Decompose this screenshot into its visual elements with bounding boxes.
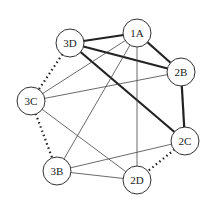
node-2c: 2C <box>171 127 199 155</box>
node-2d: 2D <box>123 166 151 194</box>
node-3d: 3D <box>56 29 84 57</box>
graph-diagram: 1A2B2C2D3B3C3D <box>0 0 212 210</box>
node-label: 3C <box>25 95 38 107</box>
node-label: 3D <box>63 37 77 49</box>
nodes-layer: 1A2B2C2D3B3C3D <box>17 19 199 194</box>
node-3b: 3B <box>43 157 71 185</box>
node-label: 2B <box>175 66 188 78</box>
node-label: 2D <box>130 174 144 186</box>
node-2b: 2B <box>167 58 195 86</box>
node-label: 1A <box>130 27 144 39</box>
edge-3b-2c <box>57 141 185 171</box>
node-label: 2C <box>179 135 192 147</box>
node-1a: 1A <box>123 19 151 47</box>
node-label: 3B <box>51 165 64 177</box>
node-3c: 3C <box>17 87 45 115</box>
